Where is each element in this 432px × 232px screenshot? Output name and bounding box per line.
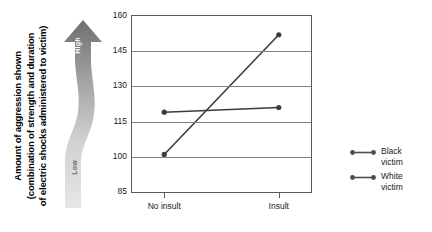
x-axis-tick: [279, 193, 280, 198]
series-line-2: [164, 35, 279, 155]
arrow-label-high: High: [74, 29, 81, 63]
gridline: [132, 122, 311, 123]
x-axis-tick-label: Insult: [234, 201, 324, 211]
y-axis-title: Amount of aggression shown (combination …: [0, 0, 62, 232]
series-line-1: [164, 108, 279, 113]
x-axis-tick-labels: No insultInsult: [131, 201, 312, 215]
data-point: [276, 32, 281, 37]
data-point: [276, 105, 281, 110]
y-axis-tick-label: 160: [99, 11, 127, 20]
legend: Black victimWhite victim: [350, 146, 432, 196]
legend-line-marker-icon: [350, 174, 376, 181]
x-axis-tick: [164, 193, 165, 198]
legend-line-marker-icon: [350, 149, 376, 156]
legend-label: Black victim: [381, 146, 403, 167]
y-axis-tick-label: 145: [99, 46, 127, 55]
y-axis-tick-labels: 85100115130145160: [99, 15, 127, 193]
y-axis-title-line-3: of electric shocks administered to victi…: [37, 26, 50, 207]
y-axis-title-line-1: Amount of aggression shown: [12, 26, 25, 207]
y-axis-tick-label: 130: [99, 81, 127, 90]
magnitude-arrow-icon: High Low: [62, 12, 104, 208]
legend-item: White victim: [350, 171, 432, 192]
plot-area: [131, 15, 312, 193]
arrow-label-low: Low: [71, 151, 78, 185]
gridline: [132, 51, 311, 52]
y-axis-tick-label: 115: [99, 117, 127, 126]
gridline: [132, 157, 311, 158]
y-axis-title-line-2: (combination of strength and duration: [25, 26, 38, 207]
plot-series-svg: [132, 16, 311, 192]
legend-label: White victim: [381, 171, 403, 192]
gridline: [132, 86, 311, 87]
data-point: [162, 110, 167, 115]
aggression-line-chart: Amount of aggression shown (combination …: [0, 0, 432, 232]
x-axis-ticks: [131, 193, 312, 199]
y-axis-tick-label: 85: [99, 187, 127, 196]
x-axis-tick-label: No insult: [119, 201, 209, 211]
y-axis-tick-label: 100: [99, 152, 127, 161]
legend-item: Black victim: [350, 146, 432, 167]
